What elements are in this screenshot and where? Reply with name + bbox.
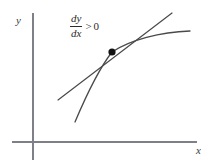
function-curve bbox=[75, 31, 190, 122]
figure-canvas: y x dy dx > 0 bbox=[0, 0, 215, 163]
y-axis-label: y bbox=[16, 15, 21, 26]
point-of-tangency-dot bbox=[108, 48, 115, 55]
relation-operator: > bbox=[85, 21, 91, 32]
derivative-numerator: dy bbox=[70, 13, 82, 25]
x-axis-label: x bbox=[196, 145, 201, 156]
derivative-fraction: dy dx bbox=[70, 13, 82, 39]
derivative-denominator: dx bbox=[70, 28, 82, 40]
derivative-annotation: dy dx > 0 bbox=[70, 13, 99, 39]
relation-value: 0 bbox=[94, 21, 100, 32]
figure-graphics bbox=[0, 0, 215, 163]
